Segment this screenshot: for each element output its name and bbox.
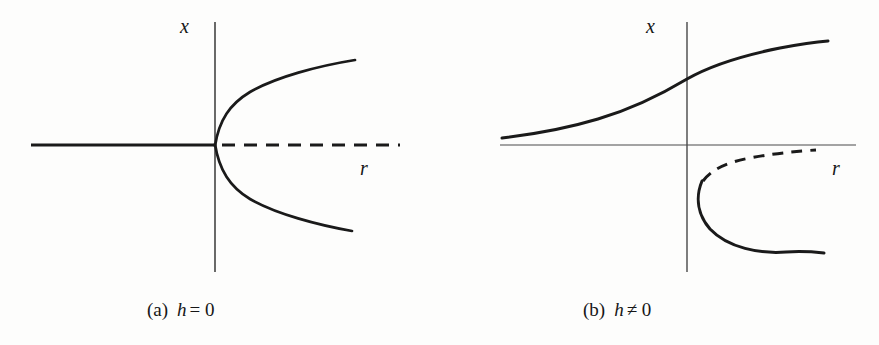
caption-relation: ≠ 0: [624, 299, 652, 320]
caption-tag: (a): [147, 299, 168, 320]
upper-stable-branch: [215, 60, 355, 146]
caption-variable: h: [605, 299, 624, 320]
lower-stable-branch: [215, 144, 352, 231]
axis-label-r: r: [360, 158, 368, 178]
saddle-node-lower-arm: [698, 181, 824, 253]
caption-relation: = 0: [187, 299, 215, 320]
panel-b-plot: [440, 0, 879, 345]
panel-b-caption: (b)h≠ 0: [583, 300, 651, 319]
panel-b: x r (b)h≠ 0: [440, 0, 879, 345]
caption-variable: h: [168, 299, 187, 320]
bifurcation-figure: x r (a)h= 0 x: [0, 0, 879, 345]
continuous-stable-branch: [502, 41, 828, 138]
unstable-upper-arm: [703, 150, 816, 181]
panel-a: x r (a)h= 0: [0, 0, 440, 345]
panel-a-plot: [0, 0, 440, 345]
axis-label-x: x: [180, 16, 189, 36]
caption-tag: (b): [583, 299, 605, 320]
panel-a-caption: (a)h= 0: [147, 300, 215, 319]
axis-label-x: x: [646, 16, 655, 36]
axis-label-r: r: [832, 158, 840, 178]
